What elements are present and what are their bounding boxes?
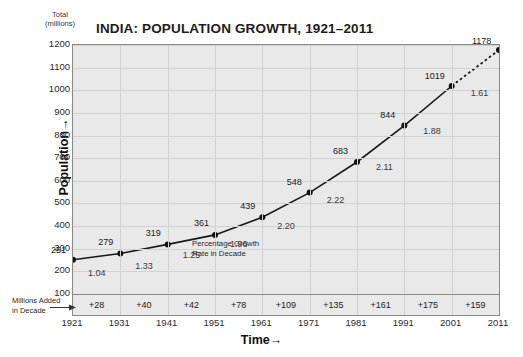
- decade-separator: [215, 295, 216, 315]
- millions-added-cell: +161: [357, 295, 404, 315]
- x-tick-label: 2011: [478, 317, 518, 328]
- x-tick-label: 1991: [383, 317, 423, 328]
- data-point-label: 1019: [425, 71, 445, 81]
- annotation-line2: Rate in Decade: [192, 249, 259, 259]
- decade-separator: [452, 295, 453, 315]
- y-tick-label: 500: [36, 196, 70, 207]
- growth-rate-label: 1.61: [471, 88, 489, 98]
- population-line-series: [73, 45, 499, 294]
- millions-added-cell: +42: [168, 295, 215, 315]
- annotation-line1: Percentage Growth: [192, 239, 259, 249]
- y-axis-ticks: 100200300400500600700800900100011001200: [30, 44, 70, 295]
- x-axis-title-text: Time: [241, 333, 270, 347]
- y-tick-label: 800: [36, 129, 70, 140]
- growth-rate-label: 2.20: [277, 221, 295, 231]
- x-tick-label: 1931: [99, 317, 139, 328]
- millions-added-arrow-icon: [50, 303, 76, 312]
- data-point-label: 361: [194, 218, 209, 228]
- gridline-horizontal: [73, 271, 499, 272]
- y-tick-label: 200: [36, 264, 70, 275]
- decade-separator: [168, 295, 169, 315]
- chart-page: INDIA: POPULATION GROWTH, 1921–2011 Tota…: [0, 0, 523, 357]
- x-tick-label: 1951: [194, 317, 234, 328]
- gridline-vertical: [262, 45, 263, 294]
- y-tick-label: 1200: [36, 38, 70, 49]
- data-point-label: 319: [146, 228, 161, 238]
- gridline-vertical: [404, 45, 405, 294]
- growth-rate-label: 1.88: [423, 126, 441, 136]
- decade-separator: [310, 295, 311, 315]
- plot-area: 25127931936143954868384410191178 1.041.3…: [72, 44, 500, 295]
- x-tick-label: 1921: [52, 317, 92, 328]
- gridline-horizontal: [73, 68, 499, 69]
- gridline-horizontal: [73, 45, 499, 46]
- gridline-vertical: [452, 45, 453, 294]
- decade-separator: [120, 295, 121, 315]
- millions-added-cell: +40: [120, 295, 167, 315]
- y-axis-unit-caption: Total (millions): [37, 10, 83, 28]
- y-tick-label: 700: [36, 151, 70, 162]
- millions-added-cell: +78: [215, 295, 262, 315]
- data-point-marker: [496, 47, 499, 53]
- y-axis-unit-line2: (millions): [37, 19, 83, 28]
- y-tick-label: 1000: [36, 83, 70, 94]
- y-tick-label: 400: [36, 219, 70, 230]
- x-tick-label: 1971: [289, 317, 329, 328]
- data-point-marker: [73, 257, 76, 263]
- data-point-label: 1178: [472, 36, 491, 46]
- data-point-label: 548: [287, 177, 302, 187]
- gridline-vertical: [120, 45, 121, 294]
- x-axis-title: Time→: [0, 333, 523, 347]
- x-tick-label: 1941: [147, 317, 187, 328]
- gridline-horizontal: [73, 113, 499, 114]
- data-point-label: 844: [380, 110, 395, 120]
- millions-added-cell: +135: [310, 295, 357, 315]
- decade-separator: [357, 295, 358, 315]
- data-point-label: 683: [333, 146, 348, 156]
- data-point-label: 279: [98, 237, 113, 247]
- millions-added-cell: +175: [404, 295, 451, 315]
- growth-rate-annotation: Percentage Growth Rate in Decade: [192, 239, 259, 258]
- data-point-label: 251: [51, 245, 66, 255]
- data-point-label: 439: [240, 201, 255, 211]
- y-tick-label: 1100: [36, 61, 70, 72]
- x-axis-arrow-icon: →: [270, 333, 283, 347]
- gridline-horizontal: [73, 90, 499, 91]
- millions-added-cell: +159: [452, 295, 499, 315]
- millions-added-band: +28+40+42+78+109+135+161+175+159: [72, 295, 500, 316]
- growth-rate-label: 2.11: [376, 162, 393, 172]
- millions-added-cell: +28: [73, 295, 120, 315]
- page-title: INDIA: POPULATION GROWTH, 1921–2011: [96, 21, 373, 36]
- decade-separator: [404, 295, 405, 315]
- growth-rate-label: 1.33: [135, 261, 153, 271]
- growth-rate-label: 2.22: [327, 195, 345, 205]
- growth-rate-label: 1.04: [88, 268, 106, 278]
- x-tick-label: 2001: [431, 317, 471, 328]
- gridline-vertical: [310, 45, 311, 294]
- gridline-vertical: [168, 45, 169, 294]
- decade-separator: [262, 295, 263, 315]
- millions-added-cell: +109: [262, 295, 309, 315]
- gridline-horizontal: [73, 158, 499, 159]
- x-tick-label: 1981: [336, 317, 376, 328]
- gridline-vertical: [357, 45, 358, 294]
- gridline-horizontal: [73, 203, 499, 204]
- x-tick-label: 1961: [241, 317, 281, 328]
- gridline-horizontal: [73, 136, 499, 137]
- y-tick-label: 600: [36, 174, 70, 185]
- y-tick-label: 900: [36, 106, 70, 117]
- y-axis-unit-line1: Total: [37, 10, 83, 19]
- gridline-horizontal: [73, 249, 499, 250]
